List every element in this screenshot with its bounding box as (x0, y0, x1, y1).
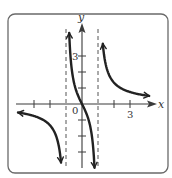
chart: x y 0 3 3 (0, 0, 172, 178)
x-tick-label-3: 3 (127, 109, 133, 120)
x-axis-label: x (158, 98, 165, 111)
chart-frame (8, 14, 168, 173)
origin-label: 0 (72, 105, 78, 116)
y-tick-label-3: 3 (72, 51, 78, 62)
y-axis-label: y (77, 11, 85, 24)
